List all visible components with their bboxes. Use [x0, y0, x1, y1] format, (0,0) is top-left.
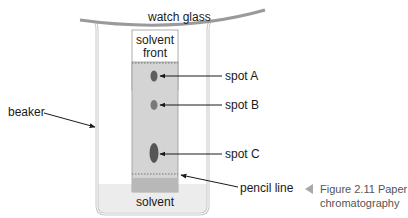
triangle-left-icon	[305, 184, 313, 194]
beaker-label: beaker	[8, 105, 45, 119]
spot-c	[150, 143, 159, 163]
caption-line-1: Figure 2.11 Paper	[320, 183, 408, 195]
beaker-leader	[44, 113, 95, 127]
watch-glass-label: watch glass	[147, 10, 211, 24]
spot-c-label: spot C	[225, 147, 260, 161]
spot-b	[151, 100, 158, 110]
spot-a	[151, 71, 158, 82]
solvent-front-label-2: front	[143, 46, 168, 60]
spot-b-label: spot B	[225, 98, 259, 112]
caption-line-2: chromatography	[320, 197, 400, 209]
pencil-line-label: pencil line	[240, 181, 294, 195]
solvent-front-label-1: solvent	[136, 33, 175, 47]
solvent-label: solvent	[136, 195, 175, 209]
spot-a-label: spot A	[225, 69, 258, 83]
